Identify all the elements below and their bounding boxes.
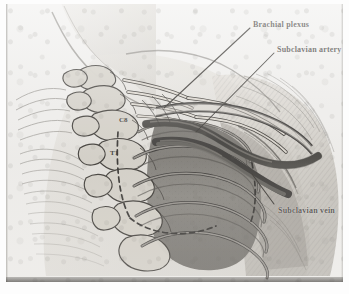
label-vertebra-t1: T1 bbox=[110, 149, 118, 157]
label-subclavian-vein: Subclavian vein bbox=[278, 206, 335, 215]
plate-right-edge bbox=[341, 4, 343, 282]
label-subclavian-artery: Subclavian artery bbox=[277, 45, 342, 54]
leader-brachial-plexus bbox=[164, 28, 250, 108]
scanned-plate: Brachial plexus Subclavian artery Subcla… bbox=[6, 4, 343, 282]
leader-subclavian-vein bbox=[252, 174, 274, 204]
illustration-page: Brachial plexus Subclavian artery Subcla… bbox=[0, 0, 349, 294]
label-brachial-plexus: Brachial plexus bbox=[253, 20, 309, 29]
label-vertebra-c8: C8 bbox=[119, 116, 128, 124]
plate-left-edge bbox=[6, 4, 8, 282]
leader-subclavian-artery bbox=[196, 53, 274, 132]
plate-bottom-edge bbox=[6, 277, 343, 282]
